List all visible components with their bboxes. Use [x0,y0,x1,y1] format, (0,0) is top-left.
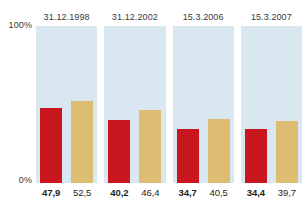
bar-red [108,120,130,183]
bar-red [177,129,199,183]
chart-panel [173,26,234,183]
bar-group [104,26,165,183]
value-label-red: 40,2 [108,186,130,200]
bar-group [173,26,234,183]
value-label-red: 34,4 [245,186,267,200]
value-label-tan: 52,5 [71,186,93,200]
value-label-tan: 39,7 [276,186,298,200]
bar-group [241,26,302,183]
y-axis-label-top: 100% [2,20,32,30]
chart-panel [36,26,97,183]
value-label-tan: 46,4 [139,186,161,200]
panel-header-row: 31.12.1998 31.12.2002 15.3.2006 15.3.200… [36,11,302,24]
bar-tan [71,101,93,183]
value-label-row: 47,9 52,5 40,2 46,4 34,7 40,5 34,4 39,7 [36,186,302,202]
panel-value-group: 34,7 40,5 [173,186,234,202]
panel-header-label: 31.12.1998 [36,11,97,24]
bar-red [40,108,62,183]
bar-red [245,129,267,183]
panel-header-label: 15.3.2006 [173,11,234,24]
value-label-red: 47,9 [40,186,62,200]
panel-value-group: 40,2 46,4 [104,186,165,202]
chart-panel [241,26,302,183]
bar-tan [208,119,230,183]
bar-tan [139,110,161,183]
bar-chart: 100% 0% 31.12.1998 31.12.2002 15.3.2006 … [0,0,308,212]
value-label-red: 34,7 [177,186,199,200]
panel-value-group: 34,4 39,7 [241,186,302,202]
y-axis-label-bottom: 0% [2,175,32,185]
panel-value-group: 47,9 52,5 [36,186,97,202]
bar-group [36,26,97,183]
value-label-tan: 40,5 [208,186,230,200]
plot-area [36,26,302,183]
bar-tan [276,121,298,183]
chart-panel [104,26,165,183]
panel-header-label: 15.3.2007 [241,11,302,24]
panel-header-label: 31.12.2002 [104,11,165,24]
